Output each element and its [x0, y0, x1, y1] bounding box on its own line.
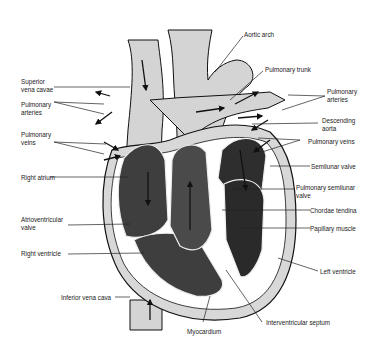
pulmonary-outflow — [170, 145, 212, 250]
label-papillary-muscle: Papillary muscle — [310, 225, 356, 233]
label-descending-aorta: Descending aorta — [322, 117, 355, 132]
label-superior-vena-cavae: Superior vena cavae — [21, 78, 53, 93]
label-aortic-arch: Aortic arch — [244, 31, 274, 39]
label-semilunar-valve: Semilunar valve — [311, 163, 356, 171]
label-pulmonary-veins-left: Pulmonary veins — [21, 131, 51, 146]
right-atrium — [118, 145, 168, 238]
label-pulmonary-trunk: Pulmonary trunk — [265, 66, 311, 74]
heart-diagram — [0, 0, 380, 352]
label-inferior-vena-cava: Inferior vena cava — [61, 294, 111, 302]
label-right-ventricle: Right ventricle — [21, 250, 61, 258]
label-chordae-tendina: Chordae tendina — [310, 207, 357, 215]
label-left-ventricle: Left ventricle — [320, 268, 356, 276]
label-atrioventricular-valve: Atrioventricular valve — [21, 216, 63, 231]
label-pulmonary-semilunar-valve: Pulmonary semilunar valve — [296, 184, 355, 199]
label-right-atrium: Right atrium — [21, 174, 55, 182]
label-interventricular-septum: Interventricular septum — [266, 319, 330, 327]
label-pulmonary-arteries-left: Pulmonary arteries — [21, 101, 51, 116]
label-pulmonary-arteries-right: Pulmonary arteries — [327, 88, 357, 103]
label-myocardium: Myocardium — [187, 328, 221, 336]
label-pulmonary-veins-right: Pulmonary veins — [308, 138, 355, 146]
